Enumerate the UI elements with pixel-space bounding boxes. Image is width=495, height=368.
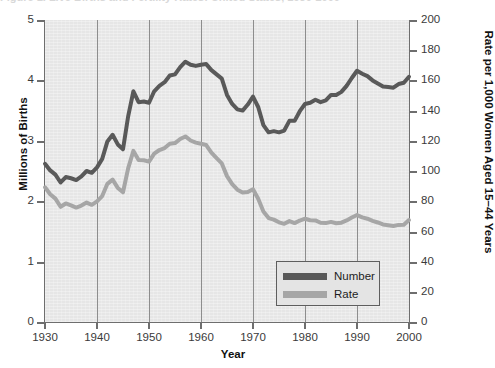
number-line bbox=[45, 62, 409, 183]
axis-label-bottom-1950: 1950 bbox=[127, 331, 171, 343]
axis-label-right-100: 100 bbox=[421, 164, 453, 176]
axis-label-left-5: 5 bbox=[8, 13, 34, 25]
tick-bottom-2000 bbox=[408, 323, 410, 329]
y-axis-title-left: Millions of Births bbox=[17, 69, 29, 219]
tick-bottom-1990 bbox=[356, 323, 358, 329]
axis-label-right-40: 40 bbox=[421, 255, 453, 267]
legend-swatch-number bbox=[283, 273, 327, 280]
axis-label-right-20: 20 bbox=[421, 285, 453, 297]
axis-label-bottom-1990: 1990 bbox=[335, 331, 379, 343]
figure-title-remnant: Figure 1. Live Births and Fertility Rate… bbox=[0, 0, 466, 3]
axis-label-bottom-1960: 1960 bbox=[179, 331, 223, 343]
axis-label-right-80: 80 bbox=[421, 194, 453, 206]
axis-label-right-200: 200 bbox=[421, 13, 453, 25]
tick-right-40 bbox=[410, 262, 417, 264]
tick-left-5 bbox=[37, 20, 44, 22]
axis-label-bottom-2000: 2000 bbox=[387, 331, 431, 343]
axis-label-right-120: 120 bbox=[421, 134, 453, 146]
legend-label-rate: Rate bbox=[334, 288, 358, 300]
axis-label-bottom-1980: 1980 bbox=[283, 331, 327, 343]
tick-right-60 bbox=[410, 232, 417, 234]
axis-label-right-140: 140 bbox=[421, 104, 453, 116]
tick-right-80 bbox=[410, 201, 417, 203]
tick-bottom-1950 bbox=[148, 323, 150, 329]
tick-left-0 bbox=[37, 322, 44, 324]
tick-bottom-1980 bbox=[304, 323, 306, 329]
tick-bottom-1960 bbox=[200, 323, 202, 329]
tick-right-120 bbox=[410, 141, 417, 143]
tick-right-100 bbox=[410, 171, 417, 173]
legend-swatch-rate bbox=[283, 291, 327, 298]
tick-right-200 bbox=[410, 20, 417, 22]
axis-label-right-160: 160 bbox=[421, 73, 453, 85]
axis-label-bottom-1970: 1970 bbox=[231, 331, 275, 343]
tick-left-1 bbox=[37, 262, 44, 264]
x-axis-title: Year bbox=[0, 348, 466, 360]
axis-label-right-180: 180 bbox=[421, 43, 453, 55]
rate-line bbox=[45, 136, 409, 226]
axis-label-right-0: 0 bbox=[421, 315, 453, 327]
chart-legend: Number Rate bbox=[276, 261, 380, 306]
tick-right-160 bbox=[410, 80, 417, 82]
axis-label-bottom-1930: 1930 bbox=[23, 331, 67, 343]
tick-right-20 bbox=[410, 292, 417, 294]
tick-right-0 bbox=[410, 322, 417, 324]
tick-left-2 bbox=[37, 201, 44, 203]
axis-label-left-1: 1 bbox=[8, 255, 34, 267]
tick-right-180 bbox=[410, 50, 417, 52]
y-axis-title-right: Rate per 1,000 Women Aged 15–44 Years bbox=[483, 0, 495, 292]
axis-label-bottom-1940: 1940 bbox=[75, 331, 119, 343]
axis-label-left-0: 0 bbox=[8, 315, 34, 327]
tick-left-3 bbox=[37, 141, 44, 143]
legend-item-rate: Rate bbox=[283, 285, 373, 303]
tick-bottom-1930 bbox=[44, 323, 46, 329]
axis-label-right-60: 60 bbox=[421, 225, 453, 237]
tick-bottom-1940 bbox=[96, 323, 98, 329]
tick-bottom-1970 bbox=[252, 323, 254, 329]
tick-right-140 bbox=[410, 111, 417, 113]
legend-label-number: Number bbox=[334, 270, 375, 282]
tick-left-4 bbox=[37, 80, 44, 82]
legend-item-number: Number bbox=[283, 267, 373, 285]
